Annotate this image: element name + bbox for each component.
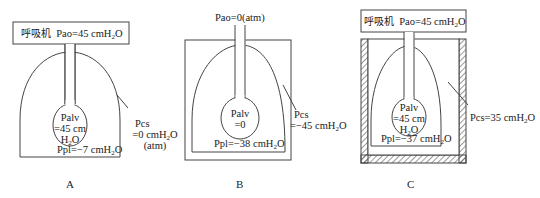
ppl-label-c: Ppl=−37 cmH2O (381, 133, 451, 144)
pcs-label-c: Pcs=35 cmH2O (470, 112, 535, 123)
pao-label-b: Pao=0(atm) (215, 12, 265, 23)
palv-label-b: Palv =0 (225, 108, 255, 130)
ventilator-label-a: 呼吸机 Pao=45 cmH2O (21, 28, 123, 39)
caption-b: B (236, 178, 243, 190)
pcs-label-b: Pcs =−45 cmH2O (294, 109, 346, 131)
rigid-wall-bottom (361, 155, 466, 163)
rigid-wall-left (361, 39, 368, 163)
pcs-label-a: Pcs =0 cmH2O (atm) (127, 118, 183, 151)
caption-c: C (407, 178, 414, 190)
caption-a: A (66, 178, 74, 190)
palv-label-c: Palv =45 cm H2O (393, 102, 425, 135)
ppl-label-b: Ppl=−38 cmH2O (214, 138, 284, 149)
ventilator-label-c: 呼吸机 Pao=45 cmH2O (364, 16, 466, 27)
ppl-label-a: Ppl=−7 cmH2O (57, 144, 122, 155)
palv-label-a: Palv =45 cm H2O (54, 112, 86, 145)
